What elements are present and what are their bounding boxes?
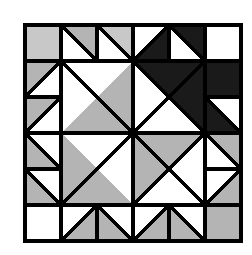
cell-r5-c0-solid	[25, 205, 61, 241]
cell-r1-c5-solid	[205, 61, 241, 97]
cell-r0-c0-solid	[25, 25, 61, 61]
cell-r0-c5-solid	[205, 25, 241, 61]
quilt-block-figure	[0, 0, 252, 255]
quilt-canvas	[0, 0, 252, 255]
cell-r5-c5-solid	[205, 205, 241, 241]
